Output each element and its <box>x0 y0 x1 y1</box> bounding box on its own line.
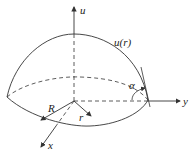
radius-R-arrow <box>41 101 74 120</box>
radius-R-label: R <box>48 103 55 114</box>
membrane-diagram <box>0 0 194 155</box>
angle-label: α <box>129 80 135 91</box>
u-axis-label: u <box>80 5 86 16</box>
radius-r-label: r <box>79 112 83 123</box>
x-axis-label: x <box>48 140 53 151</box>
y-axis-label: y <box>183 96 188 107</box>
surface-label: u(r) <box>114 37 131 48</box>
base-back-curve <box>7 77 148 100</box>
